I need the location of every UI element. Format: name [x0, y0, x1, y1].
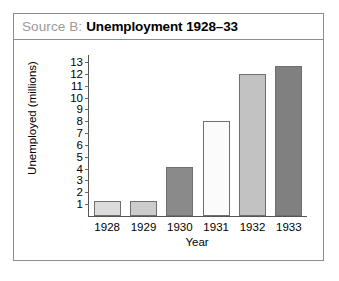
y-axis-tick-label: 4	[77, 163, 83, 175]
y-axis-tick-label: 5	[77, 151, 83, 163]
bar	[275, 66, 302, 216]
y-axis-tick-label: 1	[77, 198, 83, 210]
y-axis-tick-label: 7	[77, 127, 83, 139]
bar	[166, 167, 193, 216]
y-axis-tick-label: 12	[70, 68, 83, 80]
x-axis-tick-label: 1929	[131, 221, 157, 233]
y-axis-tick-label: 13	[70, 56, 83, 68]
bar-series	[89, 55, 307, 216]
bar-chart: Unemployed (millions) 12345678910111213 …	[14, 40, 323, 260]
bar	[130, 201, 157, 216]
y-axis-tick-label: 2	[77, 186, 83, 198]
x-axis-tick-label: 1933	[276, 221, 302, 233]
y-axis-tick-label: 11	[71, 80, 83, 92]
source-panel: Source B: Unemployment 1928–33 Unemploye…	[13, 13, 324, 261]
source-label: Source B:	[22, 19, 82, 34]
x-axis-tick-label: 1932	[240, 221, 266, 233]
x-axis-tick-label: 1928	[94, 221, 120, 233]
y-axis-tick-label: 10	[70, 92, 83, 104]
bar	[203, 121, 230, 216]
bar	[239, 74, 266, 216]
source-title: Unemployment 1928–33	[86, 19, 238, 34]
y-axis-tick-label: 6	[77, 139, 83, 151]
x-axis-tick-label: 1930	[167, 221, 193, 233]
y-axis-tick-label: 3	[77, 174, 83, 186]
plot-area: 12345678910111213 1928192919301931193219…	[88, 55, 307, 217]
bar	[94, 201, 121, 216]
y-axis-title: Unemployed (millions)	[26, 38, 38, 198]
y-axis-tick-label: 9	[77, 103, 83, 115]
x-axis-title: Year	[88, 236, 306, 248]
x-axis-tick-label: 1931	[203, 221, 229, 233]
y-axis-tick-label: 8	[77, 115, 83, 127]
source-header: Source B: Unemployment 1928–33	[14, 14, 323, 40]
